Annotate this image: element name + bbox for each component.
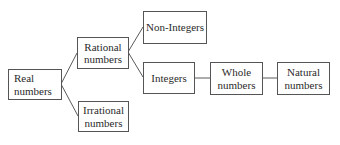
- node-irrational-numbers-line2: numbers: [85, 117, 123, 130]
- edge-real-rational: [61, 53, 77, 84]
- node-natural-numbers: Natural numbers: [277, 62, 330, 95]
- node-non-integers-line1: Non-Integers: [146, 21, 204, 34]
- edge-rational-nonintegers: [128, 27, 143, 52]
- node-non-integers: Non-Integers: [143, 11, 207, 44]
- node-rational-numbers-line1: Rational: [84, 41, 121, 54]
- node-whole-numbers: Whole numbers: [210, 62, 263, 95]
- number-classification-diagram: Real numbers Rational numbers Irrational…: [0, 0, 340, 145]
- node-irrational-numbers-line1: Irrational: [83, 104, 124, 117]
- node-real-numbers-line2: numbers: [14, 85, 52, 98]
- edge-rational-integers: [128, 52, 143, 77]
- node-real-numbers-line1: Real: [14, 72, 34, 85]
- node-whole-numbers-line2: numbers: [218, 79, 256, 92]
- node-irrational-numbers: Irrational numbers: [78, 101, 129, 132]
- edge-real-irrational: [61, 84, 78, 116]
- node-integers: Integers: [143, 62, 195, 94]
- node-natural-numbers-line1: Natural: [287, 66, 320, 79]
- node-whole-numbers-line1: Whole: [222, 66, 251, 79]
- node-integers-line1: Integers: [151, 72, 186, 85]
- node-rational-numbers: Rational numbers: [77, 37, 129, 69]
- node-real-numbers: Real numbers: [8, 69, 62, 100]
- node-rational-numbers-line2: numbers: [84, 53, 122, 66]
- node-natural-numbers-line2: numbers: [285, 79, 323, 92]
